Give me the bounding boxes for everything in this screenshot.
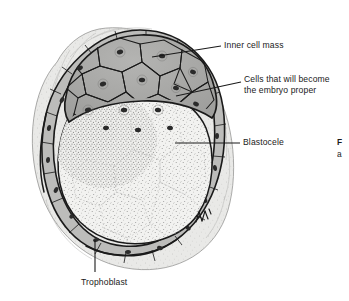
figure-canvas: Inner cell mass Cells that will becometh… bbox=[0, 0, 349, 301]
label-embryo-proper: Cells that will becomethe embryo proper bbox=[244, 74, 330, 95]
label-trophoblast: Trophoblast bbox=[81, 277, 127, 288]
label-embryo-proper-line1: Cells that will become bbox=[244, 74, 330, 84]
label-inner-cell-mass: Inner cell mass bbox=[224, 40, 284, 51]
label-embryo-proper-line2: the embryo proper bbox=[244, 85, 316, 95]
caption-fragment: Fa bbox=[337, 136, 349, 160]
label-blastocele: Blastocele bbox=[243, 137, 284, 148]
caption-fragment-line1: F bbox=[337, 137, 342, 147]
caption-fragment-line2: a bbox=[337, 149, 342, 159]
blastocyst-illustration bbox=[0, 0, 349, 301]
